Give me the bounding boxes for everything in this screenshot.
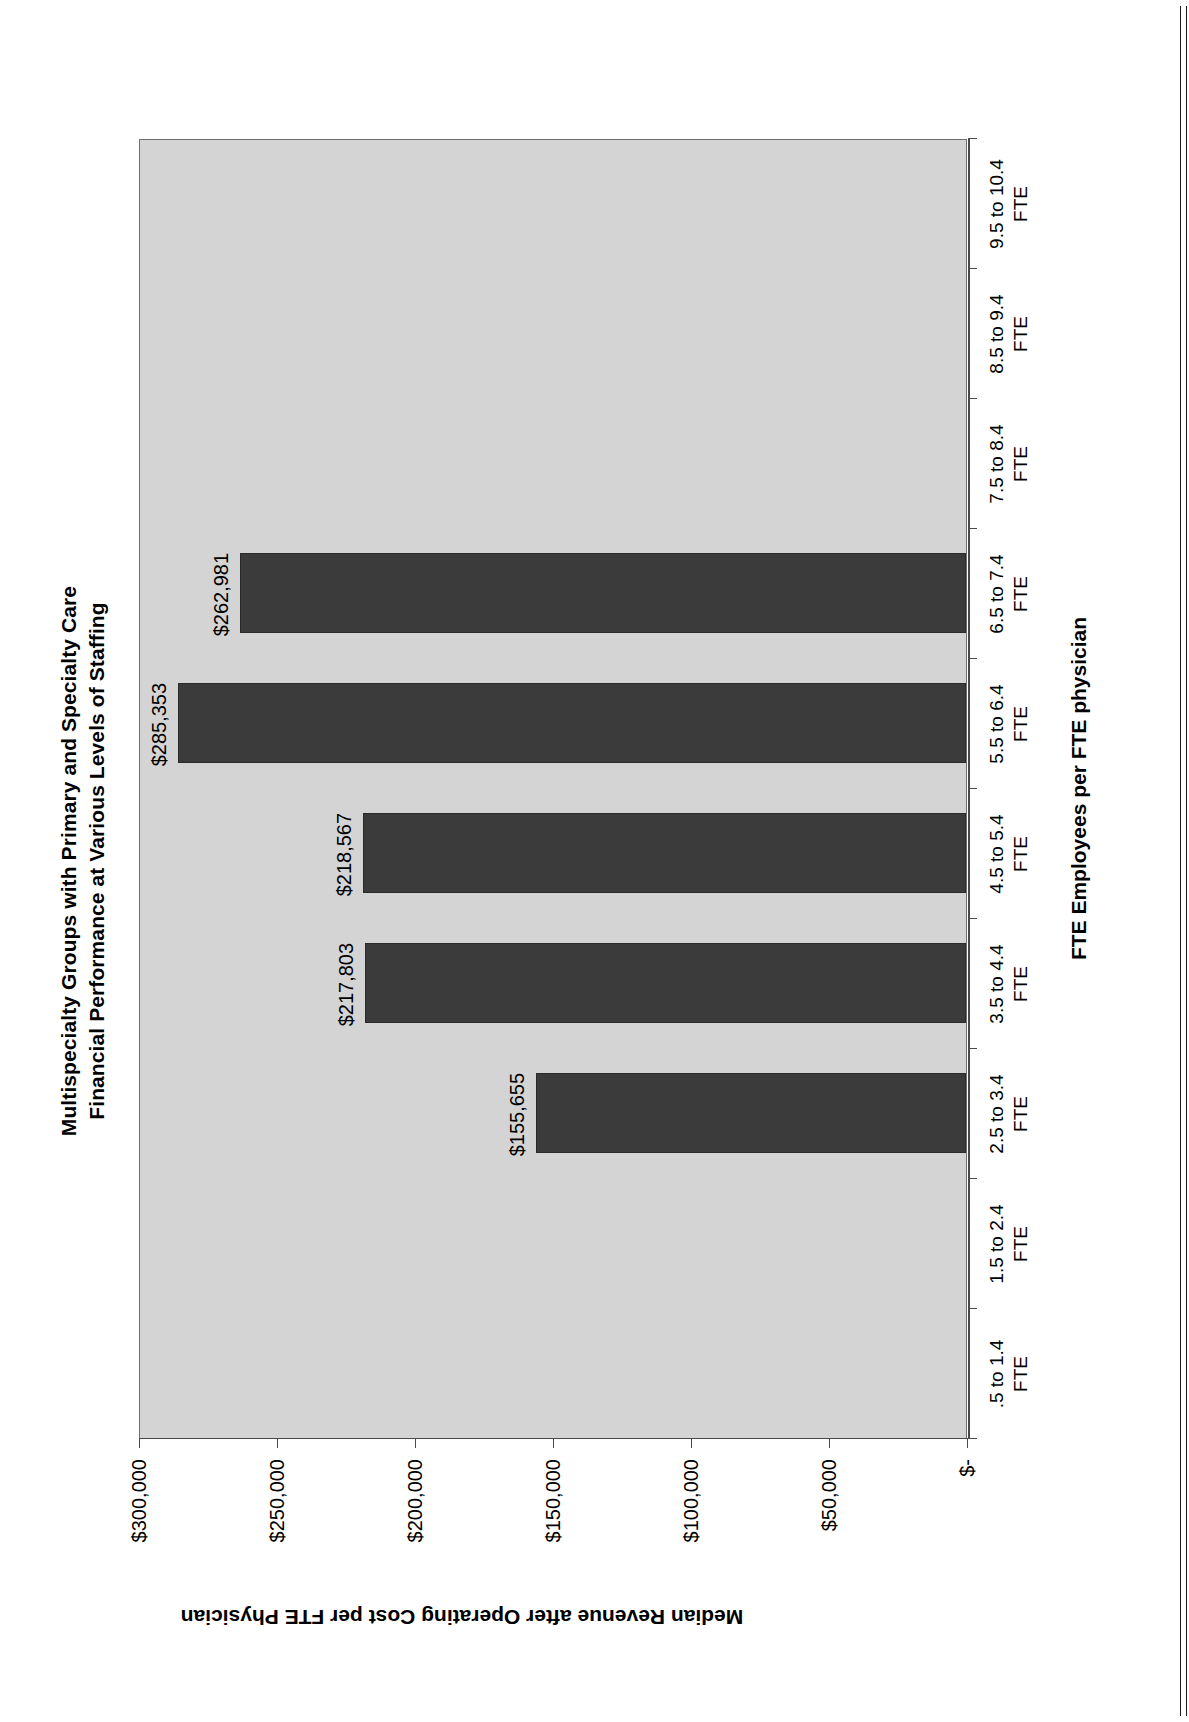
value-tick: [967, 1439, 968, 1448]
bar-value-label: $262,981: [209, 553, 232, 636]
category-tick: [968, 658, 977, 659]
chart-title-line-1: Multispecialty Groups with Primary and S…: [57, 586, 80, 1136]
category-tick-label: 9.5 to 10.4FTE: [985, 139, 1033, 269]
value-tick: [829, 1439, 830, 1448]
category-tick: [968, 788, 977, 789]
category-tick: [968, 398, 977, 399]
bar-value-label: $217,803: [334, 943, 357, 1026]
category-label-line-1: 9.5 to 10.4: [986, 159, 1007, 249]
bars-layer: [140, 140, 966, 1438]
value-tick-label: $250,000: [265, 1459, 288, 1599]
category-label-line-2: FTE: [1009, 1096, 1030, 1132]
bar-value-label: $285,353: [147, 683, 170, 766]
value-tick-label: $100,000: [679, 1459, 702, 1599]
category-tick: [968, 1048, 977, 1049]
category-tick: [968, 1438, 977, 1439]
bar: [536, 1073, 966, 1154]
value-tick-label: $50,000: [817, 1459, 840, 1599]
category-tick-label: 1.5 to 2.4FTE: [985, 1179, 1033, 1309]
category-label-line-2: FTE: [1009, 1226, 1030, 1262]
bar-value-label: $155,655: [505, 1073, 528, 1156]
category-tick: [968, 268, 977, 269]
bar: [240, 553, 966, 634]
category-tick: [968, 138, 977, 139]
category-label-line-1: 1.5 to 2.4: [986, 1204, 1007, 1283]
category-axis-title: FTE Employees per FTE physician: [1067, 138, 1091, 1439]
chart-title-line-2: Financial Performance at Various Levels …: [83, 31, 111, 1691]
scanned-page: Multispecialty Groups with Primary and S…: [0, 0, 1189, 1722]
category-label-line-1: 5.5 to 6.4: [986, 684, 1007, 763]
category-tick: [968, 1308, 977, 1309]
bar-value-label: $218,567: [332, 813, 355, 896]
bar: [362, 813, 965, 894]
category-label-line-2: FTE: [1009, 706, 1030, 742]
value-tick: [139, 1439, 140, 1448]
category-label-line-1: 2.5 to 3.4: [986, 1074, 1007, 1153]
category-tick-label: 8.5 to 9.4FTE: [985, 269, 1033, 399]
category-tick-label: 7.5 to 8.4FTE: [985, 399, 1033, 529]
category-label-line-1: 7.5 to 8.4: [986, 424, 1007, 503]
category-label-line-2: FTE: [1009, 446, 1030, 482]
rotated-figure-wrapper: Multispecialty Groups with Primary and S…: [0, 0, 1189, 1722]
value-tick-label: $150,000: [541, 1459, 564, 1599]
value-axis-title: Median Revenue after Operating Cost per …: [48, 1605, 876, 1629]
bar-chart: Multispecialty Groups with Primary and S…: [35, 31, 1155, 1691]
category-label-line-2: FTE: [1009, 316, 1030, 352]
category-label-line-1: 6.5 to 7.4: [986, 554, 1007, 633]
category-label-line-1: .5 to 1.4: [986, 1340, 1007, 1409]
category-label-line-1: 4.5 to 5.4: [986, 814, 1007, 893]
category-tick-label: .5 to 1.4FTE: [985, 1309, 1033, 1439]
category-tick: [968, 1178, 977, 1179]
bar: [364, 943, 965, 1024]
bar: [178, 683, 966, 764]
value-tick: [553, 1439, 554, 1448]
category-label-line-2: FTE: [1009, 186, 1030, 222]
value-tick-label: $200,000: [403, 1459, 426, 1599]
category-tick-label: 3.5 to 4.4FTE: [985, 919, 1033, 1049]
category-label-line-2: FTE: [1009, 836, 1030, 872]
chart-title: Multispecialty Groups with Primary and S…: [55, 31, 112, 1691]
value-tick-label: $-: [955, 1459, 978, 1599]
category-label-line-2: FTE: [1009, 576, 1030, 612]
value-tick: [691, 1439, 692, 1448]
value-tick: [277, 1439, 278, 1448]
category-tick-label: 6.5 to 7.4FTE: [985, 529, 1033, 659]
category-tick: [968, 918, 977, 919]
category-tick-label: 2.5 to 3.4FTE: [985, 1049, 1033, 1179]
category-label-line-2: FTE: [1009, 1356, 1030, 1392]
category-label-line-2: FTE: [1009, 966, 1030, 1002]
category-label-line-1: 8.5 to 9.4: [986, 294, 1007, 373]
plot-area: [139, 139, 967, 1439]
value-tick: [415, 1439, 416, 1448]
category-tick-label: 5.5 to 6.4FTE: [985, 659, 1033, 789]
category-tick: [968, 528, 977, 529]
value-tick-label: $300,000: [127, 1459, 150, 1599]
category-label-line-1: 3.5 to 4.4: [986, 944, 1007, 1023]
category-tick-label: 4.5 to 5.4FTE: [985, 789, 1033, 919]
